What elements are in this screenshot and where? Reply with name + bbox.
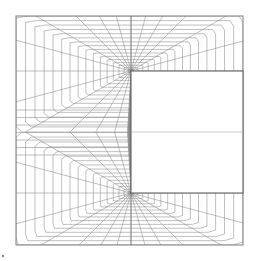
mesh-radial-line-lower: [16, 193, 131, 224]
mesh-radial-line-upper: [16, 40, 131, 71]
corner-marker: [2, 255, 4, 257]
mesh-radial-line-lower: [131, 193, 243, 223]
mesh-diagram: [0, 0, 258, 261]
mesh-radial-line-lower: [16, 162, 131, 193]
mesh-radial-line-upper: [16, 71, 131, 102]
